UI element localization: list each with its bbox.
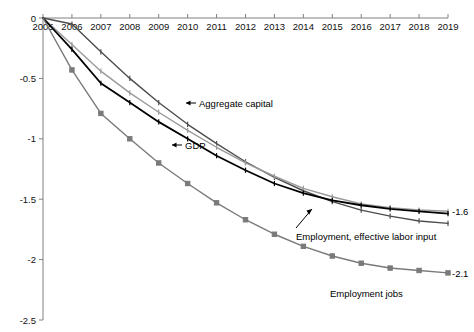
data-point-marker: [157, 161, 161, 165]
annotation-arrow-head: [172, 143, 177, 148]
data-point-marker: [359, 261, 363, 265]
annotation-gdp: GDP: [172, 140, 206, 151]
data-point-marker: [272, 232, 276, 236]
end-label-employment-jobs-value: -2.1: [452, 268, 468, 279]
data-point-marker: [388, 266, 392, 270]
x-tick-label: 2010: [177, 21, 198, 32]
annotation-aggregate-capital: Aggregate capital: [186, 98, 273, 109]
x-tick-label: 2012: [235, 21, 256, 32]
data-point-marker: [301, 244, 305, 248]
x-tick-label: 2019: [437, 21, 458, 32]
annotation-employment-effective-labor-input: Employment, effective labor input: [296, 209, 437, 242]
annotation-label-employment-effective-labor-input: Employment, effective labor input: [296, 231, 437, 242]
data-point-marker: [128, 137, 132, 141]
data-point-marker: [417, 268, 421, 272]
x-tick-label: 2013: [264, 21, 285, 32]
series-aggregate-capital: [43, 18, 448, 226]
data-point-marker: [243, 218, 247, 222]
annotation-employment-jobs: Employment jobs: [330, 288, 403, 299]
annotation-label-employment-jobs: Employment jobs: [330, 288, 403, 299]
end-labels-group: -1.6-2.1: [452, 206, 468, 279]
annotation-label-gdp: GDP: [185, 140, 206, 151]
x-tick-label: 2008: [119, 21, 140, 32]
end-label-converged-value: -1.6: [452, 206, 468, 217]
y-tick-label: -2.5: [20, 315, 36, 326]
x-tick-label: 2011: [206, 21, 226, 32]
x-tick-label: 2014: [293, 21, 314, 32]
annotation-label-aggregate-capital: Aggregate capital: [199, 98, 273, 109]
series-line: [43, 18, 448, 223]
data-point-marker: [70, 68, 74, 72]
data-point-marker: [185, 181, 189, 185]
x-tick-label: 2017: [380, 21, 401, 32]
x-tick-label: 2009: [148, 21, 169, 32]
annotation-arrow-head: [186, 101, 191, 106]
x-tick-label: 2016: [351, 21, 372, 32]
data-point-marker: [99, 111, 103, 115]
y-tick-label: -0.5: [20, 73, 36, 84]
x-tick-label: 2018: [409, 21, 430, 32]
series-line: [43, 18, 448, 211]
series-employment-effective-labor-input: [43, 18, 448, 216]
x-axis-ticks: 2005200620072008200920102011201220132014…: [32, 14, 458, 32]
data-point-marker: [446, 271, 450, 275]
data-point-marker: [214, 201, 218, 205]
x-tick-label: 2007: [90, 21, 111, 32]
line-chart: 2005200620072008200920102011201220132014…: [0, 0, 474, 332]
x-tick-label: 2015: [322, 21, 343, 32]
y-tick-label: 0: [31, 13, 36, 24]
y-tick-label: -1: [28, 133, 36, 144]
y-tick-label: -2: [28, 254, 36, 265]
y-axis-ticks: 0-0.5-1-1.5-2-2.5: [20, 13, 43, 326]
chart-container: 2005200620072008200920102011201220132014…: [0, 0, 474, 332]
data-point-marker: [330, 254, 334, 258]
y-tick-label: -1.5: [20, 194, 36, 205]
